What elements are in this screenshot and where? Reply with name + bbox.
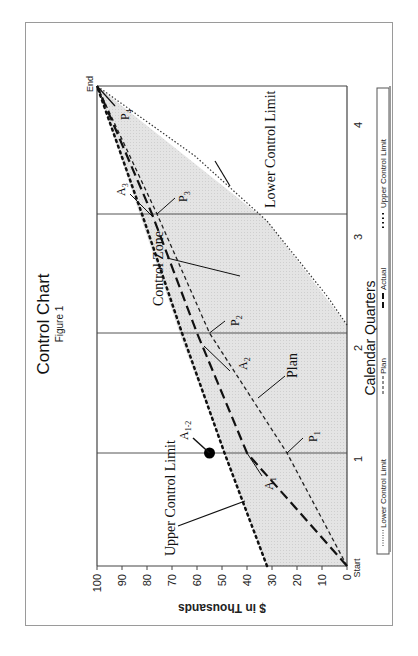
chart-title: Control Chart [34, 273, 53, 374]
legend-ucl: Upper Control Limit [379, 138, 388, 208]
svg-text:70: 70 [166, 574, 178, 586]
ucl-leader [178, 501, 245, 526]
lcl-annotation: Lower Control Limit [263, 90, 278, 208]
legend-lcl: Lower Control Limit [379, 458, 388, 528]
a12-leader [193, 438, 210, 453]
x-tick-end: End [85, 76, 95, 92]
y-axis-label: $ in Thousands [178, 601, 266, 615]
plot-area: A1-2 Upper Control Limit A1 P1 Plan A2 [97, 86, 347, 570]
x-tick-4: 4 [352, 122, 364, 128]
svg-text:90: 90 [116, 574, 128, 586]
svg-text:10: 10 [316, 574, 328, 586]
chart-subtitle: Figure 1 [54, 305, 65, 342]
svg-text:80: 80 [141, 574, 153, 586]
plan-annotation: Plan [285, 353, 300, 378]
svg-text:50: 50 [216, 574, 228, 586]
svg-text:20: 20 [291, 574, 303, 586]
x-tick-3: 3 [352, 234, 364, 240]
legend-actual: Actual [379, 268, 388, 290]
svg-text:30: 30 [266, 574, 278, 586]
control-zone-fill [97, 86, 347, 566]
legend-plan: Plan [379, 358, 388, 374]
a12-label: A1-2 [177, 421, 193, 440]
svg-text:60: 60 [191, 574, 203, 586]
zone-annotation: Control Zone [151, 231, 166, 306]
control-chart: Control Chart Figure 1 [25, 22, 393, 626]
rotated-chart: Control Chart Figure 1 [25, 22, 393, 626]
chart-frame: Control Chart Figure 1 [25, 22, 393, 626]
y-tick-labels: 100 90 80 70 60 50 40 30 20 10 0 [91, 574, 353, 592]
x-tick-start: Start [352, 558, 362, 578]
svg-text:40: 40 [241, 574, 253, 586]
x-axis-label: Calendar Quarters [362, 280, 378, 395]
x-tick-1: 1 [352, 456, 364, 462]
ucl-annotation: Upper Control Limit [163, 440, 178, 556]
a3-label: A3 [114, 183, 130, 196]
legend: Lower Control Limit Plan Actual Upper Co… [377, 86, 391, 554]
svg-text:100: 100 [91, 574, 103, 592]
